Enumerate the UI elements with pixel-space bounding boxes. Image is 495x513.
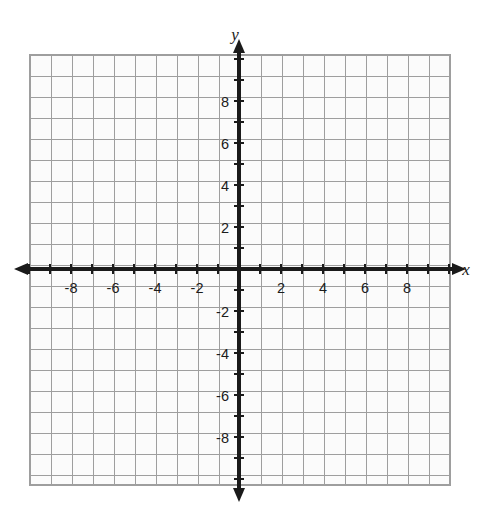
x-tick-label: 2 [277,280,285,296]
x-tick-label: -2 [191,280,204,296]
x-tick-label: 4 [319,280,327,296]
x-tick-label: -6 [107,280,120,296]
y-axis-label: y [229,25,239,44]
y-tick-label: 2 [221,220,229,236]
y-tick-label: -2 [216,304,229,320]
coordinate-plane-svg: -8-6-4-22468 8642-2-4-6-8 x y [0,0,495,513]
y-tick-label: -4 [216,346,229,362]
x-tick-label: 6 [361,280,369,296]
x-tick-label: -8 [65,280,78,296]
y-tick-label: 6 [221,136,229,152]
y-tick-label: -8 [216,430,229,446]
x-axis-label: x [461,260,470,279]
x-tick-label: 8 [403,280,411,296]
y-tick-label: 4 [221,178,229,194]
x-tick-label: -4 [149,280,162,296]
y-tick-label: 8 [221,94,229,110]
y-axis-arrow-down [233,488,245,502]
x-axis-arrow-left [14,263,28,275]
coordinate-plane-figure: -8-6-4-22468 8642-2-4-6-8 x y [0,0,495,513]
y-tick-label: -6 [216,388,229,404]
